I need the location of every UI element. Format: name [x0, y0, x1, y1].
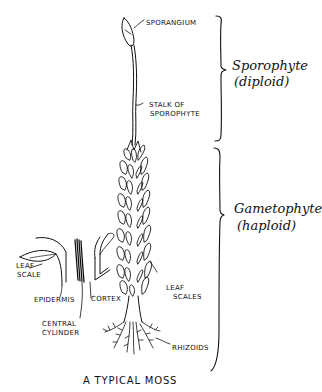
label-stalk-line1: STALK OF: [149, 101, 185, 109]
label-sporophyte: Sporophyte: [232, 58, 308, 73]
sporangium-pointer: [134, 20, 144, 28]
label-central-line1: CENTRAL: [42, 320, 76, 328]
label-leaf-scale-line2: SCALE: [17, 271, 41, 279]
label-sporangium: SPORANGIUM: [146, 19, 196, 27]
stalk-pointer: [136, 103, 143, 105]
label-diploid: (diploid): [234, 74, 289, 89]
diagram-title: A TYPICAL MOSS: [83, 375, 177, 386]
label-rhizoids: RHIZOIDS: [172, 344, 209, 352]
label-gametophyte: Gametophyte: [234, 201, 322, 216]
rhizoids-shape: [103, 322, 160, 354]
leafy-shoot: [117, 140, 152, 296]
gametophyte-brace: [211, 148, 224, 371]
label-leaf-scales-line2: SCALES: [173, 293, 202, 301]
label-leaf-scales-line1: LEAF: [166, 284, 184, 292]
rhizoids-pointer: [156, 338, 170, 344]
label-stalk-line2: SPOROPHYTE: [150, 110, 200, 118]
label-central-line2: CYLINDER: [42, 329, 79, 337]
stalk-shape: [131, 45, 137, 145]
label-haploid: (haploid): [237, 218, 296, 233]
sporophyte-brace: [215, 16, 226, 141]
label-leaf-scale-line1: LEAF: [16, 262, 34, 270]
label-cortex: CORTEX: [91, 295, 121, 303]
label-epidermis: EPIDERMIS: [34, 296, 75, 304]
